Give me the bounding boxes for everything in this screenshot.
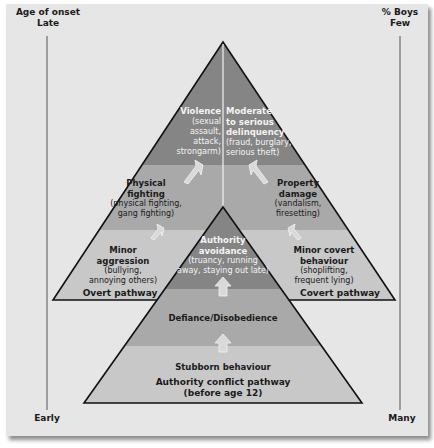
- pathway-age: (before age 12): [133, 388, 313, 399]
- stage-desc: (shoplifting,: [282, 266, 366, 276]
- stage-desc: annoying others): [78, 276, 168, 286]
- stage-title: Authority: [168, 235, 278, 246]
- right-axis-bottom-label: Many: [382, 413, 422, 424]
- stage-moderate-delinquency: Moderate to serious delinquency (fraud, …: [226, 106, 306, 158]
- stage-desc: serious theft): [226, 148, 306, 158]
- covert-pathway-label: Covert pathway: [290, 288, 390, 299]
- stage-minor-aggression: Minor aggression (bullying, annoying oth…: [78, 245, 168, 286]
- stage-desc: frequent lying): [282, 276, 366, 286]
- diagram-stage: Age of onset Late Early % Boys Few Many …: [0, 0, 434, 448]
- stage-title: Property: [258, 178, 338, 189]
- stage-minor-covert: Minor covert behaviour (shoplifting, fre…: [282, 245, 366, 286]
- stage-desc: (vandalism,: [258, 199, 338, 209]
- stage-title: fighting: [98, 189, 194, 200]
- stage-desc: firesetting): [258, 209, 338, 219]
- stage-physical-fighting: Physical fighting (physical fighting, ga…: [98, 178, 194, 219]
- pathway-name: Authority conflict pathway: [133, 377, 313, 388]
- stage-desc: (fraud, burglary,: [226, 138, 306, 148]
- stage-desc: assault, attack,: [163, 127, 221, 147]
- stage-property-damage: Property damage (vandalism, firesetting): [258, 178, 338, 219]
- left-axis-title: Age of onset: [6, 7, 90, 18]
- left-axis-bottom-label: Early: [32, 413, 62, 424]
- left-axis-top-label: Late: [6, 18, 90, 29]
- left-axis-label: Age of onset Late: [6, 7, 90, 29]
- stage-authority-avoidance: Authority avoidance (truancy, running aw…: [168, 235, 278, 276]
- stage-title: Minor: [78, 245, 168, 256]
- stage-desc: gang fighting): [98, 209, 194, 219]
- stage-desc: strongarm): [163, 147, 221, 157]
- stage-title: Violence: [163, 106, 221, 117]
- overt-pathway-label: Overt pathway: [70, 288, 170, 299]
- stage-title: avoidance: [168, 246, 278, 257]
- stage-defiance: Defiance/Disobedience: [153, 313, 293, 324]
- stage-desc: (bullying,: [78, 266, 168, 276]
- stage-desc: (physical fighting,: [98, 199, 194, 209]
- stage-title: Physical: [98, 178, 194, 189]
- right-axis-top-label: Few: [370, 18, 430, 29]
- stage-stubborn: Stubborn behaviour: [153, 362, 293, 373]
- stage-title: damage: [258, 189, 338, 200]
- stage-desc: (sexual: [163, 117, 221, 127]
- authority-pathway-label: Authority conflict pathway (before age 1…: [133, 377, 313, 398]
- stage-title: behaviour: [282, 256, 366, 267]
- stage-desc: away, staying out late): [168, 266, 278, 276]
- stage-title: delinquency: [226, 127, 306, 138]
- stage-title: to serious: [226, 117, 306, 128]
- stage-violence: Violence (sexual assault, attack, strong…: [163, 106, 221, 157]
- right-axis-label: % Boys Few: [370, 7, 430, 29]
- stage-title: Moderate: [226, 106, 306, 117]
- stage-title: Minor covert: [282, 245, 366, 256]
- right-axis-title: % Boys: [370, 7, 430, 18]
- stage-desc: (truancy, running: [168, 256, 278, 266]
- stage-title: aggression: [78, 256, 168, 267]
